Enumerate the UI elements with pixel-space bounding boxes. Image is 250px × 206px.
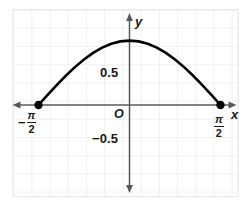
fraction-numerator-pi-right: π [214,114,224,125]
fraction-denominator-two-right: 2 [215,128,223,139]
x-tick-label-left: − π 2 [18,110,36,135]
fraction-denominator-two: 2 [27,124,35,135]
endpoint-dot-right [216,101,224,109]
endpoint-dot-left [34,101,42,109]
x-tick-label-right: π 2 [214,110,224,139]
x-axis-label: x [231,108,238,121]
negative-pi-over-two: − π 2 [18,110,36,135]
coordinate-plane [0,0,250,206]
fraction-pi-over-two-right: π 2 [214,114,224,139]
y-tick-label-negative: −0.5 [92,132,118,145]
graph-figure: y x O 0.5 −0.5 − π 2 π 2 [0,0,250,206]
fraction-pi-over-two: π 2 [27,110,37,135]
y-tick-label-positive: 0.5 [100,66,118,79]
fraction-numerator-pi: π [27,110,37,121]
y-axis-label: y [135,15,142,28]
minus-sign: − [18,116,26,129]
grid-area [13,10,238,197]
positive-pi-over-two: π 2 [214,114,224,139]
origin-label: O [114,108,124,121]
